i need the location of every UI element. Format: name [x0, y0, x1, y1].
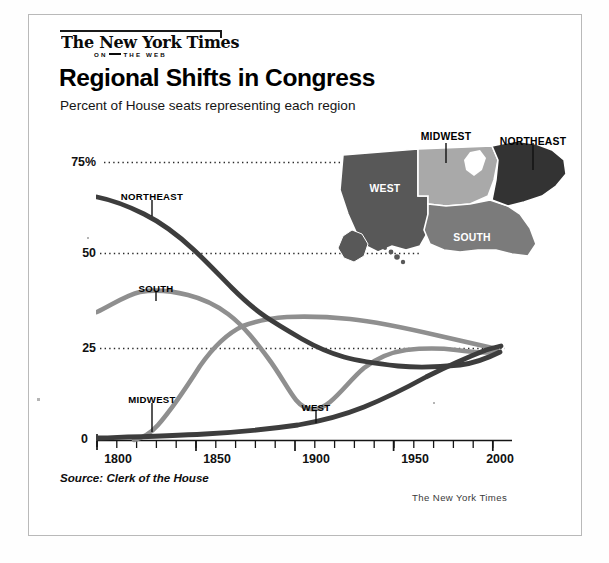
map-label-midwest: MIDWEST	[421, 131, 471, 142]
page-subtitle: Percent of House seats representing each…	[60, 98, 355, 113]
nyt-web-on: ON	[94, 51, 107, 58]
map-label-south: SOUTH	[453, 232, 490, 243]
map-label-northeast: NORTHEAST	[500, 136, 566, 147]
nyt-on-the-web: ONTHE WEB	[94, 51, 167, 58]
y-tick-label-25: 25	[56, 341, 96, 355]
scan-speck	[37, 398, 40, 401]
y-tick-label-50: 50	[56, 246, 96, 260]
nyt-logo-text: The New York Times	[61, 34, 214, 51]
nyt-web-theweb: THE WEB	[123, 51, 166, 58]
series-label-northeast: NORTHEAST	[121, 191, 183, 202]
source-note: Source: Clerk of the House	[60, 471, 209, 484]
y-tick-label-75: 75%	[56, 155, 96, 169]
series-label-midwest: MIDWEST	[128, 394, 175, 405]
scan-speck	[87, 237, 89, 239]
x-tick-label-1850: 1850	[203, 452, 231, 466]
map-label-west: WEST	[370, 183, 401, 194]
x-tick-label-1800: 1800	[104, 452, 132, 466]
masthead-rule	[60, 30, 222, 32]
nyt-masthead: The New York Times ONTHE WEB	[60, 30, 222, 60]
page-title: Regional Shifts in Congress	[59, 64, 375, 92]
x-tick-label-2000: 2000	[486, 452, 514, 466]
scan-speck	[433, 402, 435, 404]
x-tick-label-1950: 1950	[401, 452, 429, 466]
series-label-south: SOUTH	[138, 283, 173, 294]
publisher-credit: The New York Times	[412, 492, 507, 503]
series-label-west: WEST	[302, 402, 331, 413]
y-tick-label-0: 0	[56, 432, 88, 446]
infographic-page: The New York Times ONTHE WEB Regional Sh…	[0, 0, 609, 563]
x-tick-label-1900: 1900	[302, 452, 330, 466]
